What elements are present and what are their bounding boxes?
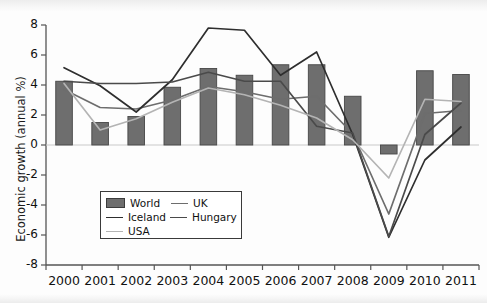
y-tick-label: -2 (12, 167, 38, 181)
legend-label: Iceland (128, 211, 166, 223)
y-tick-label: 2 (12, 107, 38, 121)
legend-label: USA (128, 225, 150, 237)
legend-label: Hungary (192, 211, 237, 223)
legend-item-usa: USA (106, 225, 172, 237)
legend-item-world: World (106, 197, 171, 209)
uk-line-swatch-icon (171, 203, 188, 204)
y-tick-label: 4 (12, 77, 38, 91)
y-tick-label: 0 (12, 137, 38, 151)
usa-line-swatch-icon (106, 231, 123, 232)
legend-item-uk: UK (171, 197, 236, 209)
chart-legend: World UK Iceland Hungary USA (100, 191, 242, 239)
plot-area (0, 0, 487, 303)
legend-item-hungary: Hungary (170, 211, 236, 223)
economic-growth-chart-figure: Economic growth (annual %) -8-6-4-202468… (0, 0, 487, 303)
y-tick-label: -8 (12, 257, 38, 271)
y-tick-label: 8 (12, 17, 38, 31)
y-tick-label: -4 (12, 197, 38, 211)
legend-label: World (130, 197, 160, 209)
world-bar-swatch-icon (106, 198, 125, 208)
legend-row: USA (106, 224, 236, 238)
y-tick-label: 6 (12, 47, 38, 61)
hungary-line-swatch-icon (170, 217, 187, 218)
legend-row: Iceland Hungary (106, 210, 236, 224)
x-tick-label: 2011 (438, 273, 484, 288)
iceland-line-swatch-icon (106, 217, 123, 218)
legend-row: World UK (106, 196, 236, 210)
legend-label: UK (193, 197, 208, 209)
y-tick-label: -6 (12, 227, 38, 241)
legend-item-iceland: Iceland (106, 211, 170, 223)
